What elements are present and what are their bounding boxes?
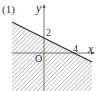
y-intercept-label: 2: [46, 28, 51, 38]
figure-label: (1): [2, 4, 15, 15]
x-intercept-label: 4: [73, 44, 78, 54]
y-axis-label: y: [36, 2, 41, 14]
x-axis-label: x: [88, 43, 93, 55]
y-axis-arrow: [43, 4, 46, 8]
origin-label: O: [35, 54, 42, 64]
